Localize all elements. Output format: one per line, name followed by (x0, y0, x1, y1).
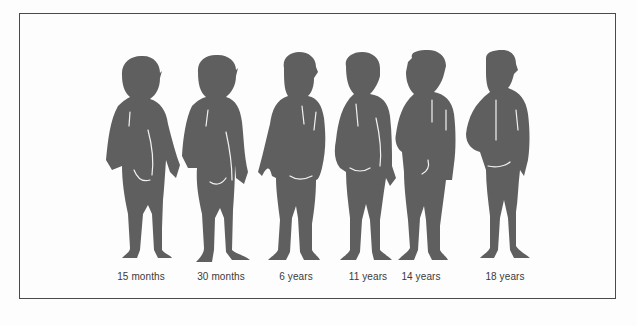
age-label-6-years: 6 years (279, 271, 313, 282)
silhouette-30-months (182, 55, 250, 262)
silhouette-18-years (466, 50, 530, 258)
age-label-11-years: 11 years (349, 271, 387, 282)
silhouette-15-months (106, 56, 180, 258)
age-label-18-years: 18 years (485, 271, 524, 282)
silhouette-6-years (258, 52, 325, 260)
age-label-14-years: 14 years (401, 271, 440, 282)
silhouette-14-years (395, 50, 455, 260)
age-label-30-months: 30 months (197, 271, 245, 282)
age-label-15-months: 15 months (117, 271, 165, 282)
silhouette-11-years (335, 52, 396, 260)
silhouettes (0, 0, 637, 326)
